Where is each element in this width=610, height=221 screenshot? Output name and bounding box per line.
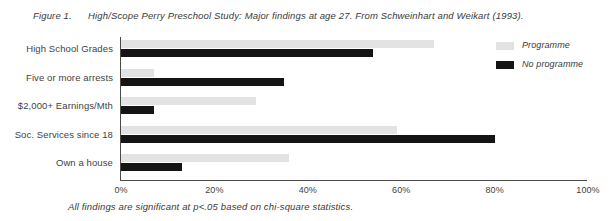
legend-label: No programme [522, 59, 583, 69]
bar-programme [121, 69, 154, 77]
bar-no-programme [121, 78, 284, 86]
x-tick-label: 0% [114, 185, 127, 195]
category-label: Five or more arrests [0, 72, 113, 83]
figure-caption: Figure 1. High/Scope Perry Preschool Stu… [0, 10, 610, 26]
chart-row: Own a house [0, 151, 610, 180]
figure-caption-text: High/Scope Perry Preschool Study: Major … [88, 10, 524, 21]
x-tick-label: 60% [392, 185, 410, 195]
x-tick-label: 40% [299, 185, 317, 195]
chart-row: $2,000+ Earnings/Mth [0, 94, 610, 123]
bar-programme [121, 97, 256, 105]
bar-no-programme [121, 135, 495, 143]
category-label: Own a house [0, 157, 113, 168]
figure-footnote: All findings are significant at p<.05 ba… [68, 201, 353, 212]
bar-no-programme [121, 49, 373, 57]
x-axis-ticks: 0%20%40%60%80%100% [0, 185, 610, 199]
category-label: $2,000+ Earnings/Mth [0, 100, 113, 111]
bar-group [121, 124, 591, 150]
bar-no-programme [121, 163, 182, 171]
legend-label: Programme [522, 40, 570, 50]
bar-group [121, 152, 591, 178]
chart-row: Soc. Services since 18 [0, 123, 610, 152]
bar-programme [121, 40, 434, 48]
x-tick-label: 80% [485, 185, 503, 195]
bar-group [121, 95, 591, 121]
figure-number: Figure 1. [33, 10, 72, 21]
category-label: Soc. Services since 18 [0, 129, 113, 140]
bar-no-programme [121, 106, 154, 114]
bar-programme [121, 126, 397, 134]
bar-programme [121, 154, 289, 162]
x-tick-label: 20% [205, 185, 223, 195]
chart-legend: ProgrammeNo programme [496, 40, 610, 76]
category-label: High School Grades [0, 43, 113, 54]
legend-swatch-icon [496, 61, 514, 69]
x-tick-label: 100% [576, 185, 599, 195]
legend-swatch-icon [496, 42, 514, 50]
